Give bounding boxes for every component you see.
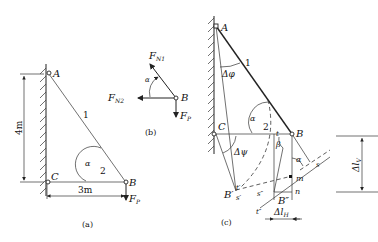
bar-2-label-c: 2 (263, 122, 269, 132)
label-B-c: B (295, 128, 303, 139)
label-B-a: B (128, 177, 136, 188)
node-B-b (174, 96, 178, 100)
bar-1-label-a: 1 (83, 110, 89, 120)
label-C-a: C (51, 171, 59, 182)
caption-a: (a) (82, 220, 93, 229)
label-t: t (276, 130, 279, 138)
bar-2-label-a: 2 (100, 166, 106, 176)
node-B-a (124, 180, 128, 184)
force-label-a: FP (128, 193, 141, 205)
delta-lv-label: ΔlV (351, 158, 362, 173)
point-m (289, 175, 292, 178)
label-s-prime: s′ (236, 194, 242, 202)
delta-lh-label: ΔlH (273, 207, 289, 218)
bar-1-label-c: 1 (245, 58, 251, 68)
wall-hatch-a (40, 68, 46, 194)
figure-c: A C B 1 2 Δφ Δψ α β α t t′ t″ s s′ s″ m … (208, 16, 378, 227)
angle-arc-b (149, 77, 158, 97)
delta-phi-label: Δφ (221, 69, 235, 79)
delta-phi-arc (220, 63, 240, 67)
delta-psi-label: Δψ (233, 147, 248, 157)
caption-c: (c) (221, 218, 232, 227)
force-n2-label: FN2 (107, 92, 124, 104)
force-n1-arrow (150, 64, 176, 98)
label-t-prime: t′ (236, 184, 241, 192)
label-n: n (295, 187, 300, 196)
label-A-a: A (52, 68, 60, 79)
node-C-a (46, 180, 50, 184)
label-A-c: A (220, 22, 228, 33)
label-m: m (296, 174, 304, 183)
label-C-c: C (218, 121, 226, 132)
angle-alpha-a: α (85, 159, 91, 168)
figure-b: α FN1 FN2 B FP (b) (107, 50, 192, 137)
deformed-bar-2 (216, 134, 236, 191)
angle-alpha-b: α (145, 76, 150, 84)
force-n1-label: FN1 (148, 50, 165, 62)
arc-t-dash (236, 176, 292, 190)
caption-b: (b) (145, 128, 156, 137)
label-B-prime: B′ (223, 189, 234, 200)
label-s: s (316, 161, 320, 169)
width-dimension-label: 3m (78, 185, 93, 195)
node-A-a (47, 71, 51, 75)
angle-alpha-c: α (250, 114, 256, 123)
height-dimension-label: 4m (14, 120, 24, 135)
label-B-b: B (180, 92, 188, 103)
truss-deformation-figure: A C B 1 2 α 4m 3m FP (a) α FN1 FN2 B FP … (0, 0, 378, 242)
node-C-c (212, 132, 216, 136)
node-A-c (214, 24, 218, 28)
label-t-double: t″ (256, 208, 262, 216)
figure-a: A C B 1 2 α 4m 3m FP (a) (14, 64, 141, 229)
label-s-double: s″ (257, 190, 264, 198)
label-B-double: B″ (277, 195, 289, 206)
force-p-label-b: FP (179, 110, 192, 122)
node-B-c (290, 132, 294, 136)
line-beta (274, 148, 283, 192)
